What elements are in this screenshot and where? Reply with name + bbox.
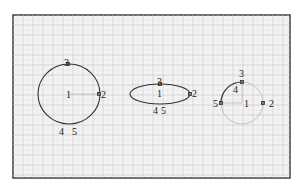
label-4: 4: [233, 84, 238, 95]
label-1: 1: [66, 89, 71, 100]
label-1: 1: [244, 98, 249, 109]
diagram-canvas: 3 1 2 4 5 3 1 2 4 5 3 4 1 5 2: [0, 0, 299, 189]
graph-paper-frame: [13, 15, 290, 178]
label-5: 5: [72, 126, 77, 137]
label-3: 3: [157, 76, 162, 87]
point-marker-5: [220, 102, 223, 105]
label-5: 5: [161, 105, 166, 116]
label-5: 5: [213, 98, 218, 109]
label-2: 2: [269, 98, 274, 109]
label-1: 1: [157, 88, 162, 99]
label-4: 4: [59, 126, 64, 137]
label-4: 4: [153, 105, 158, 116]
label-2: 2: [192, 88, 197, 99]
point-marker-3: [241, 81, 244, 84]
label-2: 2: [101, 89, 106, 100]
label-3: 3: [64, 57, 69, 68]
point-marker-2: [262, 102, 265, 105]
label-3: 3: [239, 68, 244, 79]
